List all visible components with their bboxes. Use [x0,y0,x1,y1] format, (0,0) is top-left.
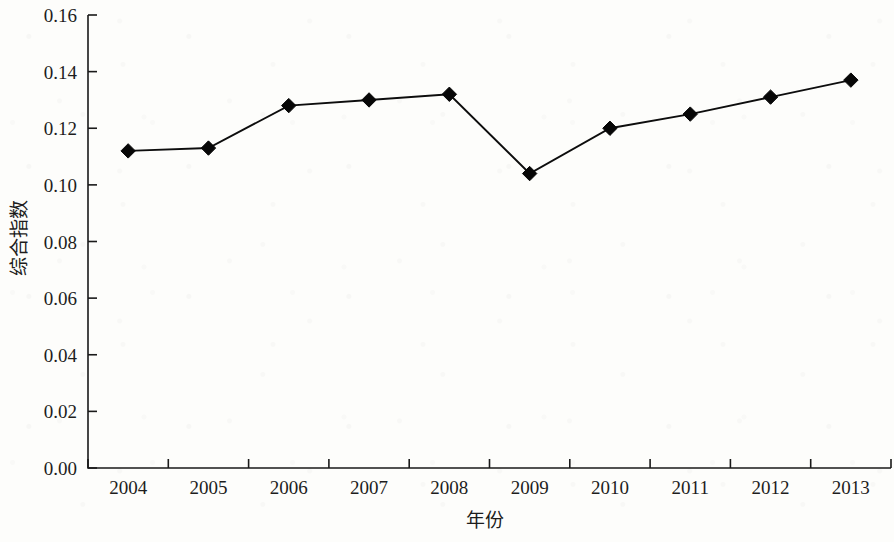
data-point-marker: 2012: 0.131 [763,90,777,104]
y-tick-label: 0.08 [44,232,77,253]
y-tick-label: 0.16 [44,5,77,26]
y-tick-label: 0.02 [44,401,77,422]
x-tick-label: 2004 [109,477,148,498]
x-tick-label: 2008 [430,477,468,498]
chart-canvas: 0.000.020.040.060.080.100.120.140.16 200… [0,0,894,542]
data-point-marker: 2011: 0.125 [683,107,697,121]
x-tick-label: 2012 [752,477,790,498]
data-point-marker: 2013: 0.137 [844,73,858,87]
x-axis-title: 年份 [466,509,504,531]
series-markers-composite-index: 2004: 0.1122005: 0.1132006: 0.1282007: 0… [121,73,858,181]
y-axis-tick-marks [88,15,97,468]
x-tick-label: 2009 [511,477,549,498]
data-point-marker: 2005: 0.113 [201,141,215,155]
data-point-marker: 2006: 0.128 [282,98,296,112]
x-axis-tick-labels: 2004200520062007200820092010201120122013 [109,477,870,498]
y-tick-label: 0.10 [44,175,77,196]
y-tick-label: 0.04 [44,345,78,366]
x-axis-tick-marks [88,459,891,468]
x-tick-label: 2013 [832,477,870,498]
y-axis-tick-labels: 0.000.020.040.060.080.100.120.140.16 [44,5,78,479]
y-tick-label: 0.14 [44,62,78,83]
data-point-marker: 2007: 0.130 [362,93,376,107]
x-tick-label: 2010 [591,477,629,498]
y-tick-label: 0.00 [44,458,77,479]
y-tick-label: 0.06 [44,288,77,309]
y-tick-label: 0.12 [44,118,77,139]
x-tick-label: 2006 [270,477,308,498]
data-point-marker: 2010: 0.120 [603,121,617,135]
x-tick-label: 2007 [350,477,388,498]
axis-spines [88,15,891,468]
line-chart-figure: 0.000.020.040.060.080.100.120.140.16 200… [0,0,894,542]
x-tick-label: 2011 [672,477,709,498]
x-tick-label: 2005 [189,477,227,498]
series-line-composite-index [128,80,851,173]
data-point-marker: 2004: 0.112 [121,144,135,158]
y-axis-title: 综合指数 [8,200,30,276]
